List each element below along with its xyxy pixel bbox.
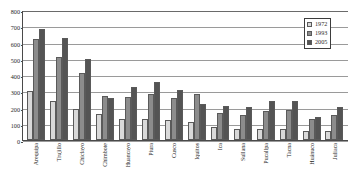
legend-item-1972[interactable]: 1972 xyxy=(307,21,327,27)
x-axis-label-tacna: Tacna xyxy=(286,143,292,157)
bar-group xyxy=(71,11,94,140)
x-axis-label-ica: Ica xyxy=(217,143,223,150)
bar-juliaca-2005 xyxy=(337,107,343,140)
legend-label-2005: 2005 xyxy=(315,39,327,45)
bar-chiclayo-2005 xyxy=(85,59,91,140)
x-axis-label-iquitos: Iquitos xyxy=(194,143,200,160)
y-tick-label-300: 300 xyxy=(11,90,20,96)
bar-arequipa-2005 xyxy=(39,29,45,140)
y-tick-label-600: 600 xyxy=(11,41,20,47)
y-tick-label-100: 100 xyxy=(11,123,20,129)
bar-cusco-2005 xyxy=(177,90,183,140)
x-label-cell: Sullana xyxy=(231,143,254,179)
x-label-cell: Iquitos xyxy=(185,143,208,179)
y-tick-label-200: 200 xyxy=(11,106,20,112)
x-axis-label-chiclayo: Chiclayo xyxy=(79,143,85,165)
legend-swatch-1993 xyxy=(307,31,312,36)
legend-swatch-1972 xyxy=(307,22,312,27)
y-tick-label-500: 500 xyxy=(11,58,20,64)
legend-item-2005[interactable]: 2005 xyxy=(307,39,327,45)
x-label-cell: Arequipa xyxy=(24,143,47,179)
x-axis-label-arequipa: Arequipa xyxy=(33,143,39,165)
x-label-cell: Juliaca xyxy=(323,143,346,179)
bar-group xyxy=(208,11,231,140)
x-label-cell: Trujillo xyxy=(47,143,70,179)
x-axis-label-pucallpa: Pucallpa xyxy=(263,143,269,164)
y-tick-label-800: 800 xyxy=(11,9,20,15)
x-label-cell: Huánuco xyxy=(300,143,323,179)
y-tick-label-700: 700 xyxy=(11,25,20,31)
x-axis-label-cusco: Cusco xyxy=(171,143,177,158)
bar-chart: 8007006005004003002001000 ArequipaTrujil… xyxy=(0,0,353,179)
y-tick-label-0: 0 xyxy=(17,139,20,145)
bar-huánuco-2005 xyxy=(315,117,321,140)
bar-ica-2005 xyxy=(223,106,229,140)
bar-group xyxy=(163,11,186,140)
x-label-cell: Huancayo xyxy=(116,143,139,179)
bar-sullana-2005 xyxy=(246,107,252,140)
bar-pucallpa-2005 xyxy=(269,101,275,140)
x-axis-label-huánuco: Huánuco xyxy=(309,143,315,165)
x-axis-label-huancayo: Huancayo xyxy=(125,143,131,167)
legend-swatch-2005 xyxy=(307,40,312,45)
bar-group xyxy=(185,11,208,140)
x-axis-label-piura: Piura xyxy=(148,143,154,156)
x-axis-label-trujillo: Trujillo xyxy=(56,143,62,161)
x-label-cell: Chimbote xyxy=(93,143,116,179)
bar-group xyxy=(277,11,300,140)
bar-tacna-2005 xyxy=(292,101,298,140)
bar-groups xyxy=(23,11,348,140)
x-axis-label-sullana: Sullana xyxy=(240,143,246,161)
bar-huancayo-2005 xyxy=(131,87,137,140)
bar-group xyxy=(231,11,254,140)
chart-legend: 197219932005 xyxy=(304,18,331,49)
bar-group xyxy=(254,11,277,140)
plot-area: 8007006005004003002001000 xyxy=(22,11,348,141)
bar-iquitos-2005 xyxy=(200,104,206,140)
bar-group xyxy=(140,11,163,140)
y-tick-label-400: 400 xyxy=(11,74,20,80)
bar-group xyxy=(117,11,140,140)
x-label-cell: Chiclayo xyxy=(70,143,93,179)
x-label-cell: Piura xyxy=(139,143,162,179)
legend-label-1972: 1972 xyxy=(315,21,327,27)
x-label-cell: Cusco xyxy=(162,143,185,179)
legend-label-1993: 1993 xyxy=(315,30,327,36)
bar-piura-2005 xyxy=(154,82,160,141)
x-axis-labels: ArequipaTrujilloChiclayoChimboteHuancayo… xyxy=(22,143,348,179)
x-axis-label-chimbote: Chimbote xyxy=(102,143,108,167)
legend-item-1993[interactable]: 1993 xyxy=(307,30,327,36)
bar-group xyxy=(25,11,48,140)
bar-group xyxy=(94,11,117,140)
x-axis-label-juliaca: Juliaca xyxy=(332,143,338,160)
bar-trujillo-2005 xyxy=(62,38,68,140)
x-label-cell: Ica xyxy=(208,143,231,179)
x-label-cell: Tacna xyxy=(277,143,300,179)
gridline-0: 0 xyxy=(23,141,348,142)
x-label-cell: Pucallpa xyxy=(254,143,277,179)
bar-chimbote-2005 xyxy=(108,98,114,140)
bar-group xyxy=(48,11,71,140)
